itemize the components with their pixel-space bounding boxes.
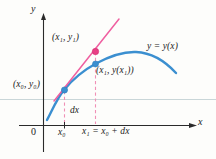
tick-label-x0: x₀ [58, 128, 66, 138]
x-axis-label: x [198, 117, 203, 127]
label-point-x1-yx1: (x₁, y(x₁)) [96, 66, 134, 76]
label-curve-equation: y = y(x) [147, 42, 178, 52]
y-axis-label: y [31, 4, 36, 14]
label-point-x0-y0: (x₀, y₀) [13, 80, 40, 90]
x-axis-arrowhead [189, 123, 197, 128]
figure-canvas: y x 0 x₀ x₁ = x₀ + dx dx (x₁, y₁) (x₁, y… [0, 0, 216, 159]
point-x0-y0 [61, 87, 67, 93]
point-x1-y1 [92, 48, 98, 54]
label-point-x1-y1: (x₁, y₁) [52, 33, 79, 43]
y-axis-arrowhead [41, 13, 46, 20]
origin-label: 0 [31, 127, 36, 137]
differential-dx-label: dx [70, 106, 79, 116]
tick-label-x1-equation: x₁ = x₀ + dx [82, 127, 130, 137]
